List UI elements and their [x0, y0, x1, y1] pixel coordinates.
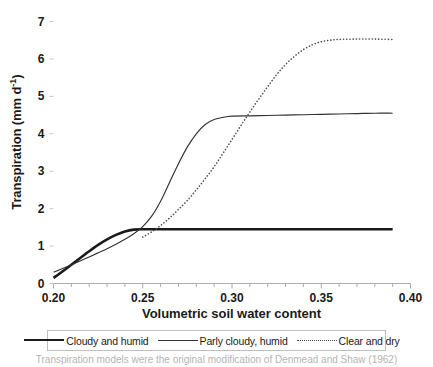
legend-item-label: Parly cloudy, humid: [198, 335, 297, 347]
x-tick-label: 0.35: [298, 292, 344, 304]
chart-plot-area: 01234567 0.200.250.300.350.40 Transpirat…: [0, 0, 433, 300]
chart-legend: Cloudy and humid Parly cloudy, humid Cle…: [47, 330, 386, 351]
y-tick-label: 5: [23, 90, 45, 102]
legend-item-cloudy-and-humid[interactable]: Cloudy and humid: [24, 335, 157, 347]
series-line-clear-and-dry: [143, 39, 393, 237]
legend-item-label: Cloudy and humid: [64, 335, 157, 347]
x-tick-label: 0.30: [209, 292, 255, 304]
x-tick-label: 0.25: [120, 292, 166, 304]
x-tick-label: 0.20: [31, 292, 77, 304]
legend-line-icon-solid-thick: [24, 337, 64, 345]
legend-item-clear-and-dry[interactable]: Clear and dry: [297, 335, 409, 347]
y-axis-title-close: ): [9, 75, 24, 79]
y-tick-label: 0: [23, 278, 45, 290]
y-tick-label: 4: [23, 128, 45, 140]
figure-container: 01234567 0.200.250.300.350.40 Transpirat…: [0, 0, 433, 367]
y-tick-label: 1: [23, 240, 45, 252]
x-tick-label: 0.40: [388, 292, 433, 304]
y-axis-title-base: Transpiration (mm d: [9, 87, 24, 210]
chart-svg: [0, 0, 433, 300]
series-line-parly-cloudy-humid: [54, 113, 393, 272]
y-tick-label: 7: [23, 16, 45, 28]
x-axis-title: Volumetric soil water content: [53, 306, 410, 321]
axis-lines: [50, 22, 411, 289]
legend-line-icon-solid-thin: [158, 337, 198, 345]
legend-item-parly-cloudy-humid[interactable]: Parly cloudy, humid: [158, 335, 297, 347]
y-axis-title-exponent: -1: [8, 79, 18, 87]
legend-line-icon-dotted: [297, 337, 337, 345]
figure-caption: Transpiration models were the original m…: [0, 354, 433, 367]
legend-item-label: Clear and dry: [337, 335, 409, 347]
y-axis-title: Transpiration (mm d-1): [8, 42, 24, 242]
y-tick-label: 3: [23, 165, 45, 177]
y-tick-label: 2: [23, 203, 45, 215]
y-tick-label: 6: [23, 53, 45, 65]
series-line-cloudy-and-humid: [54, 229, 393, 278]
data-series-layer: [54, 39, 393, 278]
